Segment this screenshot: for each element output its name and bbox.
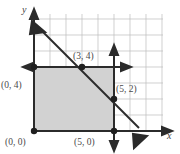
point-5-2: [111, 96, 117, 102]
label-point-0-0: (0, 0): [5, 137, 26, 147]
point-5-0: [111, 128, 117, 134]
feasible-region-shade: [34, 67, 114, 131]
x-axis-label: x: [167, 130, 171, 141]
upper-left-arrowhead: [30, 21, 45, 34]
point-0-4: [31, 64, 37, 70]
label-point-3-4: (3, 4): [73, 51, 94, 61]
label-point-0-4: (0, 4): [1, 80, 22, 90]
label-point-5-2: (5, 2): [116, 84, 137, 94]
point-3-4: [79, 64, 85, 70]
right-arrowhead: [121, 63, 131, 71]
y-axis-label: y: [22, 4, 26, 15]
coordinate-plane-svg: [0, 0, 180, 154]
lower-right-arrowhead: [133, 134, 147, 148]
point-0-0: [31, 128, 37, 134]
y-axis-arrowhead: [30, 9, 38, 19]
label-point-5-0: (5, 0): [74, 137, 95, 147]
up-arrowhead: [110, 45, 118, 55]
graph-screenshot: y x (0, 4) (0, 0) (3, 4) (5, 0) (5, 2): [0, 0, 180, 154]
down-arrowhead: [110, 141, 118, 151]
